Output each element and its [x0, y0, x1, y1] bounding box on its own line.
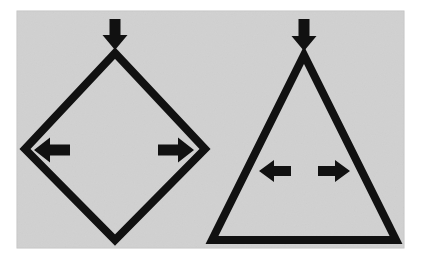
figure-canvas	[0, 0, 423, 262]
panel-grain-overlay	[17, 11, 404, 248]
figure-container: Two outlined geometric shapes with force…	[0, 0, 423, 262]
